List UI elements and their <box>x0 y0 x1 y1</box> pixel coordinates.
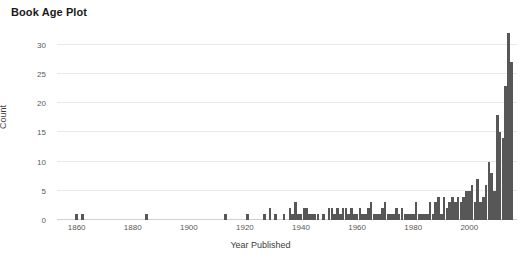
x-tick-label-1960: 1960 <box>348 223 366 232</box>
y-tick-label-25: 25 <box>37 69 46 78</box>
y-tick-label-15: 15 <box>37 128 46 137</box>
x-tick-label-1860: 1860 <box>68 223 86 232</box>
bar <box>75 214 78 220</box>
gridline-y-30 <box>57 44 517 45</box>
bar <box>283 214 286 220</box>
bar <box>81 214 84 220</box>
plot-area <box>57 33 517 220</box>
plot-inner <box>57 33 517 220</box>
y-tick-label-20: 20 <box>37 99 46 108</box>
bar <box>246 214 249 220</box>
y-tick-label-30: 30 <box>37 40 46 49</box>
x-tick-label-1920: 1920 <box>236 223 254 232</box>
x-tick-label-1900: 1900 <box>180 223 198 232</box>
x-tick-label-1880: 1880 <box>124 223 142 232</box>
y-axis-tick-labels: 051015202530 <box>0 33 52 220</box>
x-tick-label-1980: 1980 <box>404 223 422 232</box>
x-tick-label-2000: 2000 <box>460 223 478 232</box>
x-axis-tick-labels: 18601880190019201940196019802000 <box>57 223 517 237</box>
y-tick-label-0: 0 <box>42 216 46 225</box>
bar <box>317 214 320 220</box>
y-tick-label-10: 10 <box>37 157 46 166</box>
bar <box>145 214 148 220</box>
y-tick-label-5: 5 <box>42 186 46 195</box>
gridline-y-10 <box>57 161 517 162</box>
x-tick-label-1940: 1940 <box>292 223 310 232</box>
bar <box>322 214 325 220</box>
bar <box>269 208 272 220</box>
bar <box>274 214 277 220</box>
chart-title: Book Age Plot <box>11 6 87 18</box>
gridline-y-25 <box>57 73 517 74</box>
bar <box>224 214 227 220</box>
x-axis-label: Year Published <box>0 240 521 250</box>
gridline-y-15 <box>57 131 517 132</box>
bar <box>510 62 513 220</box>
bar <box>263 214 266 220</box>
gridline-y-20 <box>57 102 517 103</box>
gridline-y-5 <box>57 190 517 191</box>
chart-figure: Book Age Plot Count 051015202530 1860188… <box>0 0 521 263</box>
